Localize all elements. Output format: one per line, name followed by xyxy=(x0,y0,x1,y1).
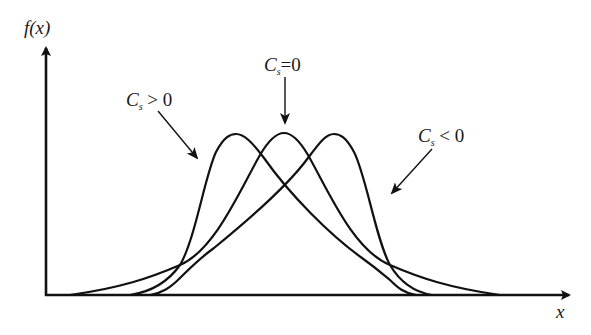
label-symbol: C xyxy=(418,125,431,146)
diagram-canvas: f(x) x Cs > 0 Cs=0 Cs < 0 xyxy=(0,0,591,335)
label-negative-skew: Cs < 0 xyxy=(418,126,464,148)
x-axis-label: x xyxy=(556,302,564,321)
label-value: 0 xyxy=(163,89,173,110)
curve-negative-skew xyxy=(150,134,432,295)
diagram-svg xyxy=(0,0,591,335)
pointer-arrows xyxy=(158,77,432,193)
label-relation: > xyxy=(147,89,158,110)
curves xyxy=(70,133,520,295)
arrow-negative-skew-icon xyxy=(392,149,432,193)
label-symbol: C xyxy=(126,89,139,110)
label-relation: = xyxy=(281,54,292,75)
label-symbol: C xyxy=(264,54,277,75)
label-value: 0 xyxy=(291,54,301,75)
label-positive-skew: Cs > 0 xyxy=(126,90,172,112)
y-axis-label: f(x) xyxy=(24,18,50,37)
curve-symmetric xyxy=(70,133,520,295)
axes xyxy=(45,48,569,296)
label-value: 0 xyxy=(455,125,465,146)
label-relation: < xyxy=(439,125,450,146)
label-subscript: s xyxy=(431,137,435,148)
arrow-positive-skew-icon xyxy=(158,111,197,158)
label-subscript: s xyxy=(139,101,143,112)
label-symmetric: Cs=0 xyxy=(264,55,301,77)
